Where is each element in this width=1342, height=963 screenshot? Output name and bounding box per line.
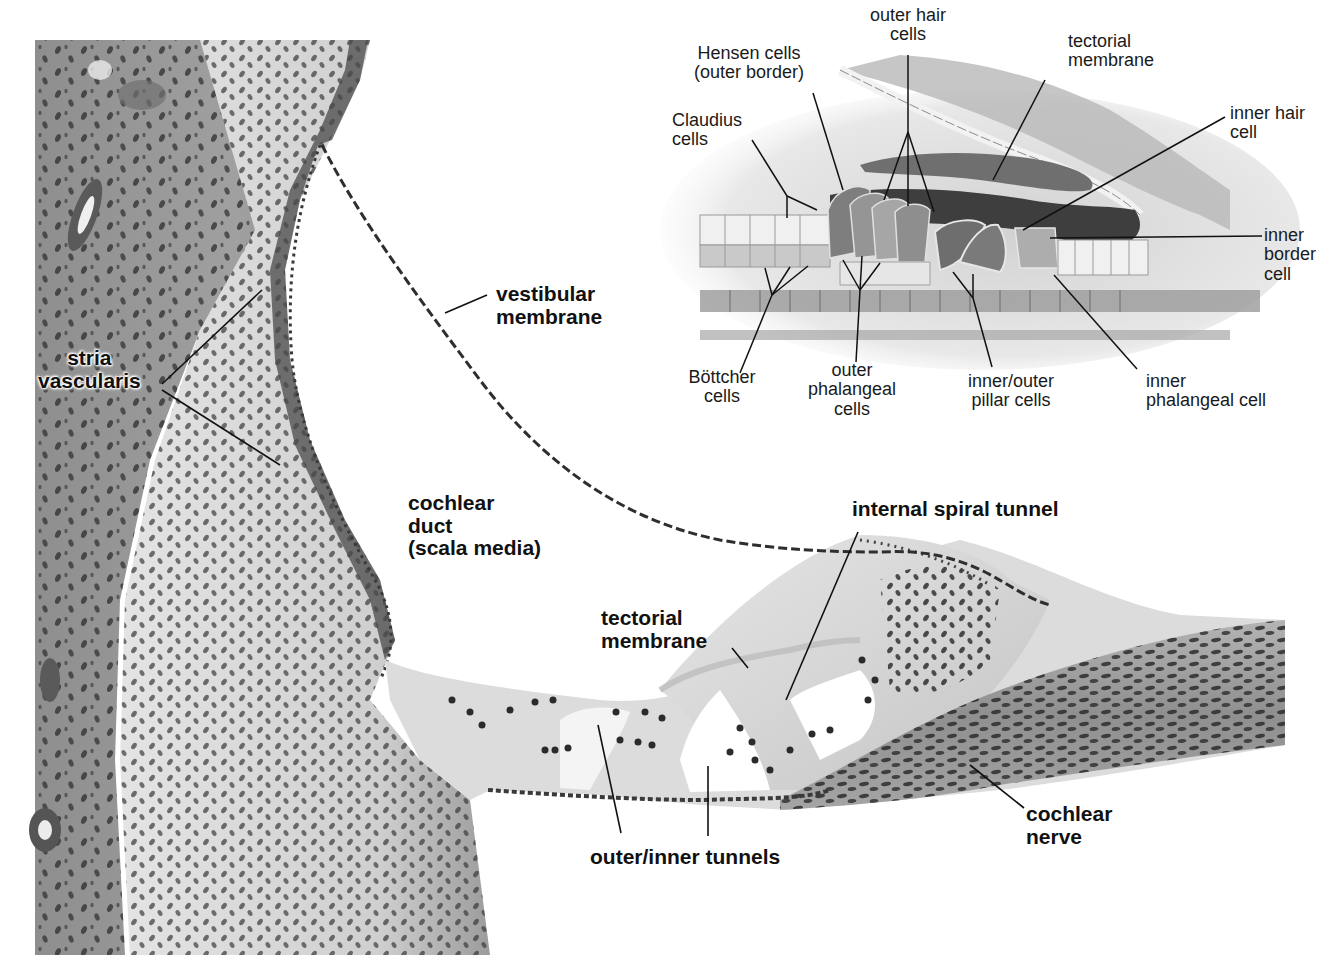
label-line: outer [796,361,908,380]
label-cochlear-nerve: cochlear nerve [1026,803,1112,848]
label-line: phalangeal [796,380,908,399]
label-line: (outer border) [680,63,818,82]
label-line: stria [38,347,141,370]
label-line: cell [1230,123,1305,142]
label-line: nerve [1026,826,1112,849]
label-line: outer/inner tunnels [590,846,780,869]
label-inner-border-cell: inner border cell [1264,226,1316,284]
label-inner-phalangeal-cell: inner phalangeal cell [1146,372,1266,411]
label-line: inner hair [1230,104,1305,123]
label-line: tectorial [601,607,707,630]
label-tectorial-membrane-inset: tectorial membrane [1068,32,1154,71]
label-line: phalangeal cell [1146,391,1266,410]
label-line: Claudius [672,111,742,130]
label-line: cochlear [408,492,541,515]
label-line: cochlear [1026,803,1112,826]
label-line: membrane [1068,51,1154,70]
claudius-cells-row [700,215,830,267]
label-outer-inner-tunnels: outer/inner tunnels [590,846,780,869]
label-internal-spiral-tunnel: internal spiral tunnel [852,498,1059,521]
label-line: outer hair [862,6,954,25]
label-line: inner [1264,226,1316,245]
label-line: duct [408,515,541,538]
label-pillar-cells: inner/outer pillar cells [955,372,1067,411]
label-line: cells [672,130,742,149]
label-line: Hensen cells [680,44,818,63]
label-line: membrane [496,306,602,329]
label-bottcher-cells: Böttcher cells [676,368,768,407]
label-line: cells [676,387,768,406]
label-line: tectorial [1068,32,1154,51]
label-line: inner/outer [955,372,1067,391]
label-tectorial-membrane-micrograph: tectorial membrane [601,607,707,652]
label-inner-hair-cell: inner hair cell [1230,104,1305,143]
label-line: membrane [601,630,707,653]
label-line: border [1264,245,1316,264]
label-cochlear-duct: cochlear duct (scala media) [408,492,541,560]
label-outer-phalangeal-cells: outer phalangeal cells [796,361,908,419]
label-vestibular-membrane: vestibular membrane [496,283,602,328]
label-stria-vascularis: stria vascularis [38,347,141,392]
figure: stria vascularis vestibular membrane coc… [0,0,1342,963]
label-line: cells [796,400,908,419]
label-outer-hair-cells: outer hair cells [862,6,954,45]
label-line: vascularis [38,370,141,393]
label-line: vestibular [496,283,602,306]
label-line: pillar cells [955,391,1067,410]
label-line: internal spiral tunnel [852,498,1059,521]
label-line: Böttcher [676,368,768,387]
label-line: (scala media) [408,537,541,560]
label-hensen-cells: Hensen cells (outer border) [680,44,818,83]
label-line: inner [1146,372,1266,391]
label-claudius-cells: Claudius cells [672,111,742,150]
organ-of-corti-schematic [0,0,1342,963]
label-line: cells [862,25,954,44]
label-line: cell [1264,265,1316,284]
